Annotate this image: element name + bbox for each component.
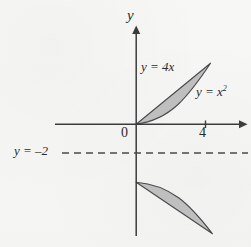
curve-equation-label: y = x2 [196, 85, 227, 98]
x-axis [55, 120, 248, 128]
reflection-line-text: y = –2 [14, 143, 48, 158]
x-tick-label-4: 4 [199, 126, 206, 140]
y-axis-label: y [127, 8, 134, 23]
math-figure: y y = 4x y = x2 y = –2 0 4 [0, 0, 251, 247]
shaded-region-lower [136, 182, 212, 234]
line-equation-text: y = 4x [141, 59, 174, 74]
origin-label: 0 [121, 126, 128, 140]
curve-exponent: 2 [223, 84, 227, 93]
line-equation-label: y = 4x [141, 60, 174, 73]
graph-canvas [0, 0, 251, 247]
curve-equation-text: y = x [196, 84, 223, 99]
y-axis [132, 26, 140, 237]
reflection-line-label: y = –2 [14, 144, 48, 157]
